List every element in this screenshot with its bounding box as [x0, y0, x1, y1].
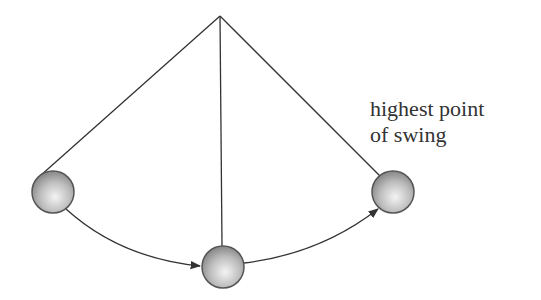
string-left — [40, 16, 220, 176]
label-line-2: of swing — [370, 122, 484, 148]
highest-point-label: highest point of swing — [370, 96, 484, 148]
right-bob — [372, 171, 414, 213]
swing-arrow-up — [244, 209, 378, 263]
left-bob — [32, 171, 74, 213]
string-center — [220, 16, 222, 246]
pendulum-diagram — [0, 0, 541, 300]
bottom-bob — [202, 246, 244, 288]
label-line-1: highest point — [370, 96, 484, 122]
swing-arrow-down — [66, 209, 200, 266]
string-right — [220, 16, 380, 176]
